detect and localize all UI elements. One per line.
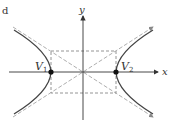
- vertex-v2: [113, 69, 118, 74]
- corner-mark: d: [2, 5, 9, 16]
- x-axis-label: x: [162, 66, 168, 77]
- hyperbola-diagram: d V1 V2 x y: [0, 0, 171, 122]
- vertex-v1: [48, 69, 53, 74]
- v2-label: V2: [121, 60, 133, 74]
- y-axis-label: y: [78, 4, 85, 15]
- v1-label: V1: [35, 60, 47, 74]
